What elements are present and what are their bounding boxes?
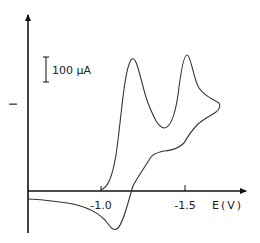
y-axis-label: I (7, 102, 20, 105)
x-axis-label: E(V) (212, 199, 243, 212)
x-tick-label-2: -1.5 (174, 199, 195, 212)
scale-bar-label: 100 µA (52, 64, 91, 77)
forward-scan-curve (101, 55, 220, 190)
scale-bar (43, 57, 49, 82)
cyclic-voltammogram-chart: -1.0 -1.5 E(V) I 100 µA (0, 0, 260, 243)
x-tick-label-1: -1.0 (90, 199, 111, 212)
